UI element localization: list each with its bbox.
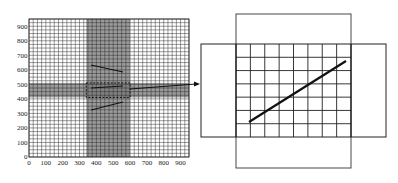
x-tick-label: 400 <box>91 159 102 167</box>
x-tick-label: 900 <box>175 159 186 167</box>
zoom-grid <box>236 44 351 137</box>
x-tick-label: 300 <box>74 159 85 167</box>
y-tick-label: 500 <box>17 81 28 89</box>
y-tick-label: 700 <box>17 52 28 60</box>
arrow-head-icon <box>194 82 200 87</box>
x-tick-label: 600 <box>125 159 136 167</box>
diagram-canvas: 0100200300400500600700800900 01002003004… <box>0 0 398 183</box>
y-tick-label: 900 <box>17 23 28 31</box>
y-tick-label: 100 <box>17 139 28 147</box>
x-axis-ticks: 0100200300400500600700800900 <box>27 159 186 167</box>
x-tick-label: 0 <box>27 159 31 167</box>
x-tick-label: 500 <box>108 159 119 167</box>
y-tick-label: 0 <box>24 153 28 161</box>
x-tick-label: 200 <box>57 159 68 167</box>
x-tick-label: 100 <box>41 159 52 167</box>
y-tick-label: 300 <box>17 110 28 118</box>
y-tick-label: 200 <box>17 124 28 132</box>
y-axis-ticks: 0100200300400500600700800900 <box>17 23 28 162</box>
zoomed-view <box>201 14 386 168</box>
y-tick-label: 600 <box>17 66 28 74</box>
x-tick-label: 700 <box>142 159 153 167</box>
left-grid-chart: 0100200300400500600700800900 01002003004… <box>17 19 200 167</box>
x-tick-label: 800 <box>158 159 169 167</box>
fine-grid <box>29 19 189 157</box>
y-tick-label: 400 <box>17 95 28 103</box>
y-tick-label: 800 <box>17 37 28 45</box>
